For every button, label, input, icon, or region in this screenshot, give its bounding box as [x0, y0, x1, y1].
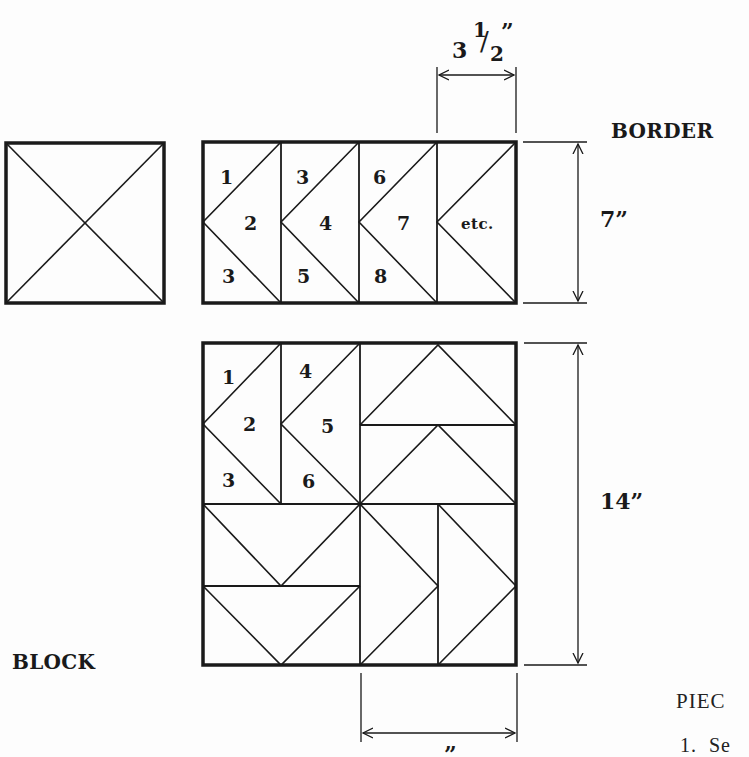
border-piece-label: 3 [222, 267, 235, 286]
dim-whole: 3 [452, 39, 467, 61]
block-bottom-dimension [361, 673, 517, 742]
border-width-label: 3 1 / 2 ” [450, 8, 530, 63]
border-piece-label: 8 [374, 267, 387, 286]
bottom-width-label: ” [444, 743, 457, 757]
dim-slash: / [480, 28, 489, 54]
block-square [203, 343, 516, 665]
border-width-dimension [437, 67, 516, 133]
border-piece-label: 7 [397, 214, 410, 233]
block-piece-label: 5 [321, 417, 334, 436]
dim-inch-mark: ” [501, 20, 514, 42]
step-text: 1. Se [680, 735, 731, 755]
corner-square [6, 143, 164, 303]
dim-denominator: 2 [490, 44, 504, 64]
block-piece-label: 3 [222, 471, 235, 490]
border-height-label: 7” [600, 208, 628, 230]
border-piece-label: 2 [244, 214, 257, 233]
block-piece-label: 6 [302, 472, 315, 491]
border-piece-label: 4 [319, 214, 332, 233]
border-height-dimension [523, 142, 587, 303]
border-piece-label: 5 [297, 267, 310, 286]
border-piece-label: 6 [373, 168, 386, 187]
block-height-label: 14” [600, 490, 643, 512]
block-title: BLOCK [12, 652, 95, 672]
piecing-heading: PIEC [676, 691, 726, 712]
border-piece-label: 3 [296, 168, 309, 187]
block-piece-label: 2 [243, 415, 256, 434]
block-height-dimension [524, 343, 587, 665]
block-piece-label: 1 [222, 368, 235, 387]
border-piece-label: 1 [220, 168, 233, 187]
block-piece-label: 4 [299, 362, 312, 381]
border-etc-label: etc. [461, 217, 494, 232]
border-title: BORDER [611, 121, 713, 141]
